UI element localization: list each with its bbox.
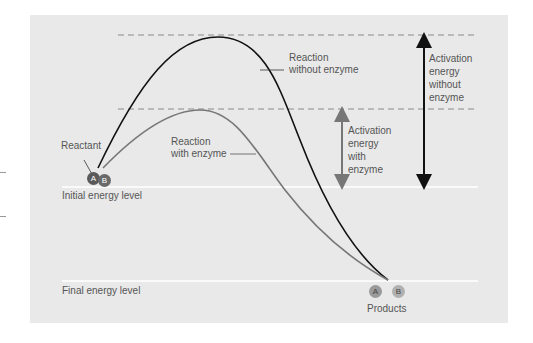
curve-with-enzyme (103, 110, 388, 280)
reaction-without-enzyme-label: Reactionwithout enzyme (289, 52, 358, 76)
activation-energy-without-enzyme-label: Activationenergywithoutenzyme (429, 52, 472, 104)
initial-energy-label: Initial energy level (62, 190, 142, 202)
products-label: Products (367, 303, 406, 315)
reaction-with-enzyme-label: Reactionwith enzyme (171, 136, 227, 160)
activation-energy-with-enzyme-label: Activationenergywithenzyme (348, 124, 391, 176)
product-molecule-a: A (369, 285, 382, 298)
product-molecule-b: B (392, 285, 405, 298)
final-energy-label: Final energy level (62, 285, 140, 297)
reactant-molecule-b: B (98, 174, 111, 187)
reactant-label: Reactant (61, 140, 101, 152)
